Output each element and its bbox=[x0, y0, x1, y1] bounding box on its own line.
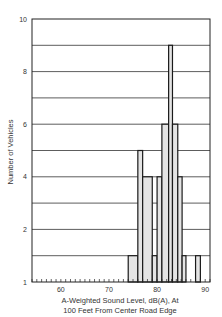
x-tick-label: 90 bbox=[201, 286, 209, 293]
x-tick-label: 70 bbox=[105, 286, 113, 293]
y-axis-title: Number of Vehicles bbox=[6, 119, 15, 184]
histogram-bars bbox=[128, 45, 200, 282]
histogram-bar bbox=[162, 124, 169, 282]
histogram-bar bbox=[172, 124, 177, 282]
y-tick-label: 8 bbox=[23, 68, 27, 75]
histogram-bar bbox=[128, 256, 138, 282]
histogram-bar bbox=[138, 151, 143, 283]
histogram-bar bbox=[152, 256, 157, 282]
histogram-bar bbox=[157, 177, 162, 282]
y-tick-label: 1 bbox=[23, 279, 27, 286]
x-tick-label: 60 bbox=[57, 286, 65, 293]
y-tick-label: 4 bbox=[23, 173, 27, 180]
histogram-bar bbox=[178, 177, 182, 282]
y-tick-label: 6 bbox=[23, 121, 27, 128]
x-axis-title-line-2: 100 Feet From Center Road Edge bbox=[63, 306, 176, 315]
histogram-bar bbox=[182, 256, 186, 282]
y-tick-label: 2 bbox=[23, 226, 27, 233]
x-axis-title-line-1: A-Weighted Sound Level, dB(A), At bbox=[61, 296, 179, 305]
histogram-chart: 1086421 60708090 Number of Vehicles A-We… bbox=[0, 0, 222, 317]
histogram-bar bbox=[196, 256, 201, 282]
y-axis-tick-labels: 1086421 bbox=[19, 16, 27, 286]
histogram-bar bbox=[143, 177, 153, 282]
y-tick-label: 10 bbox=[19, 16, 27, 23]
grid-lines bbox=[32, 45, 210, 255]
x-axis-tick-labels: 60708090 bbox=[57, 286, 209, 293]
x-tick-label: 80 bbox=[153, 286, 161, 293]
